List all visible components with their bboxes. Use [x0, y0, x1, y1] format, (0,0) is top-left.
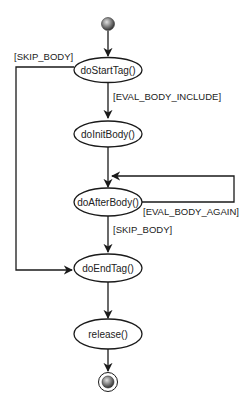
state-label: doAfterBody() — [77, 197, 139, 208]
state-diagram: doStartTag() [SKIP_BODY] [EVAL_BODY_INCL… — [0, 0, 245, 407]
state-doendtag: doEndTag() — [74, 254, 142, 282]
state-doafterbody: doAfterBody() — [74, 188, 142, 216]
guard-label-eval-body-include: [EVAL_BODY_INCLUDE] — [113, 91, 221, 102]
final-state-node — [99, 373, 118, 392]
state-label: release() — [88, 329, 127, 340]
transition-dostarttag-to-doendtag — [16, 67, 74, 270]
initial-state-node — [102, 18, 115, 31]
state-label: doInitBody() — [81, 129, 135, 140]
state-label: doEndTag() — [82, 263, 134, 274]
state-doinitbody: doInitBody() — [74, 121, 142, 147]
guard-label-eval-body-again: [EVAL_BODY_AGAIN] — [143, 206, 239, 217]
guard-label-skip-body-1: [SKIP_BODY] — [14, 51, 73, 62]
state-label: doStartTag() — [80, 65, 135, 76]
guard-label-skip-body-2: [SKIP_BODY] — [113, 224, 172, 235]
state-dostarttag: doStartTag() — [74, 58, 142, 83]
state-release: release() — [74, 319, 142, 349]
